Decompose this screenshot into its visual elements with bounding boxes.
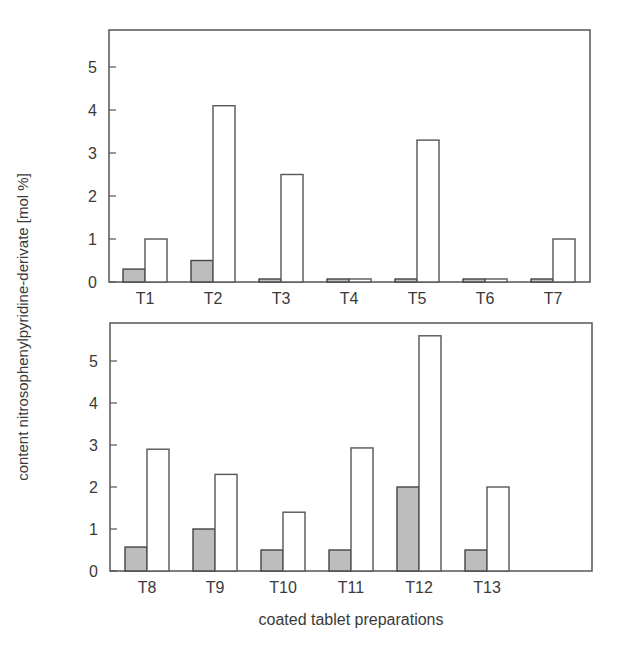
plot-frame <box>109 30 590 282</box>
bar-white <box>351 448 373 571</box>
x-tick-label: T6 <box>476 290 495 307</box>
bar-grey <box>395 279 417 282</box>
y-tick-label: 0 <box>88 274 97 291</box>
x-tick-label: T9 <box>206 579 225 596</box>
x-tick-label: T5 <box>408 290 427 307</box>
bar-grey <box>531 279 553 282</box>
x-tick-label: T11 <box>338 579 364 596</box>
bar-white <box>419 336 441 571</box>
bar-white <box>283 512 305 571</box>
bar-white <box>487 487 509 571</box>
y-tick-label: 5 <box>88 59 97 76</box>
bar-grey <box>191 261 213 283</box>
x-tick-label: T2 <box>204 290 223 307</box>
y-tick-label: 4 <box>88 102 97 119</box>
bar-white <box>147 449 169 571</box>
bottom-panel: 012345T8T9T10T11T12T13 <box>89 323 592 596</box>
y-tick-label: 0 <box>89 563 98 580</box>
bar-white <box>281 175 303 283</box>
x-tick-label: T12 <box>405 579 433 596</box>
bar-white <box>485 279 507 282</box>
bar-grey <box>329 550 351 571</box>
y-tick-label: 2 <box>88 188 97 205</box>
bar-grey <box>261 550 283 571</box>
bar-grey <box>327 279 349 282</box>
bar-grey <box>123 269 145 282</box>
bar-white <box>215 474 237 571</box>
x-tick-label: T7 <box>544 290 563 307</box>
y-tick-label: 2 <box>89 479 98 496</box>
bar-white <box>213 106 235 282</box>
x-tick-label: T8 <box>138 579 157 596</box>
x-axis-label: coated tablet preparations <box>258 611 443 628</box>
bar-white <box>553 239 575 282</box>
y-tick-label: 3 <box>89 437 98 454</box>
y-tick-label: 5 <box>89 353 98 370</box>
bar-grey <box>397 487 419 571</box>
bar-chart: 012345T1T2T3T4T5T6T7 012345T8T9T10T11T12… <box>0 0 621 655</box>
x-tick-label: T10 <box>269 579 297 596</box>
bar-grey <box>125 547 147 571</box>
x-tick-label: T13 <box>473 579 501 596</box>
x-tick-label: T1 <box>136 290 155 307</box>
x-tick-label: T4 <box>340 290 359 307</box>
bar-grey <box>465 550 487 571</box>
x-tick-label: T3 <box>272 290 291 307</box>
y-tick-label: 1 <box>89 521 98 538</box>
y-axis-label: content nitrosophenylpyridine-derivate [… <box>14 173 31 481</box>
bar-grey <box>193 529 215 571</box>
bar-white <box>145 239 167 282</box>
y-tick-label: 4 <box>89 395 98 412</box>
bar-white <box>417 140 439 282</box>
y-tick-label: 3 <box>88 145 97 162</box>
bar-grey <box>259 279 281 282</box>
top-panel: 012345T1T2T3T4T5T6T7 <box>88 30 590 307</box>
y-tick-label: 1 <box>88 231 97 248</box>
bar-grey <box>463 279 485 282</box>
bar-white <box>349 279 371 282</box>
